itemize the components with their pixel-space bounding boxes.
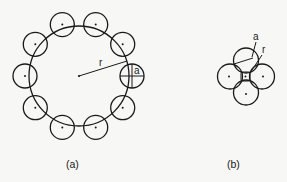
ring-radius-label-a: r xyxy=(99,57,103,68)
particle-radius-label-a: a xyxy=(134,65,140,76)
panel-a: r xyxy=(13,13,144,170)
particle-a-0 xyxy=(120,64,144,88)
caption-b: (b) xyxy=(227,158,240,170)
caption-a: (a) xyxy=(66,158,79,170)
diagram-canvas: r xyxy=(0,0,287,182)
ring-center-dot-b xyxy=(245,76,247,78)
particle-b-left xyxy=(218,64,243,89)
particle-a-252 xyxy=(50,115,74,139)
particle-radius-line-b xyxy=(234,58,253,64)
particle-a-288 xyxy=(84,115,108,139)
particle-radius-label-b: a xyxy=(253,31,259,42)
particle-b-bottom xyxy=(234,80,259,105)
panel-b: a r (b) xyxy=(218,31,275,170)
particle-a-72 xyxy=(84,13,108,37)
ring-radius-label-b: r xyxy=(262,44,266,55)
particle-a-108 xyxy=(50,13,74,37)
particle-a-180 xyxy=(13,64,37,88)
